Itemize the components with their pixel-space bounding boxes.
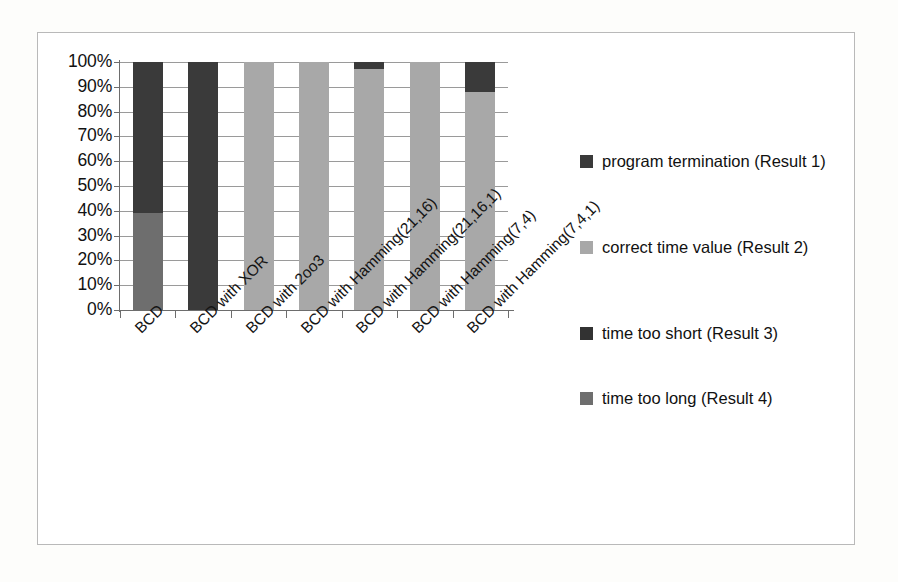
legend-label: time too short (Result 3) xyxy=(602,323,778,345)
y-axis-tick-mark xyxy=(114,260,120,261)
y-axis-tick-label: 90% xyxy=(46,78,112,96)
x-axis-category-labels: BCDBCD with XORBCD with 2oo3BCD with Ham… xyxy=(38,321,598,546)
y-axis-tick-mark xyxy=(114,186,120,187)
y-axis-tick-label: 40% xyxy=(46,202,112,220)
y-axis-tick-label: 100% xyxy=(46,53,112,71)
legend-color-swatch-icon xyxy=(580,241,593,254)
bar-segment[interactable] xyxy=(465,62,495,92)
legend-label: correct time value (Result 2) xyxy=(602,237,808,259)
bar-segment[interactable] xyxy=(133,62,163,213)
x-axis-tick-mark xyxy=(231,311,232,318)
bar-segment[interactable] xyxy=(354,62,384,69)
y-axis-tick-mark xyxy=(114,87,120,88)
legend-color-swatch-icon xyxy=(580,392,593,405)
y-axis-tick-mark xyxy=(114,236,120,237)
legend-entry[interactable]: correct time value (Result 2) xyxy=(580,237,808,259)
plot-region: 0%10%20%30%40%50%60%70%80%90%100% BCDBCD… xyxy=(38,33,598,546)
y-axis-tick-mark xyxy=(114,211,120,212)
x-axis-tick-mark xyxy=(508,311,509,318)
bar-column[interactable] xyxy=(188,62,218,310)
scanned-page: 0%10%20%30%40%50%60%70%80%90%100% BCDBCD… xyxy=(0,0,898,582)
y-axis-tick-labels: 0%10%20%30%40%50%60%70%80%90%100% xyxy=(46,55,112,307)
legend-label: time too long (Result 4) xyxy=(602,388,773,410)
x-axis-tick-mark xyxy=(175,311,176,318)
legend-color-swatch-icon xyxy=(580,327,593,340)
y-axis-tick-label: 70% xyxy=(46,127,112,145)
y-axis-tick-mark xyxy=(114,161,120,162)
y-axis-tick-mark xyxy=(114,112,120,113)
x-axis-tick-mark xyxy=(120,311,121,318)
y-axis-tick-label: 80% xyxy=(46,103,112,121)
y-axis-tick-label: 10% xyxy=(46,276,112,294)
y-axis-tick-label: 30% xyxy=(46,227,112,245)
bar-segment[interactable] xyxy=(188,62,218,310)
y-axis-tick-label: 20% xyxy=(46,251,112,269)
legend-entry[interactable]: program termination (Result 1) xyxy=(580,151,826,173)
y-axis-tick-mark xyxy=(114,62,120,63)
y-axis-tick-mark xyxy=(114,136,120,137)
bar-column[interactable] xyxy=(133,62,163,310)
y-axis-tick-label: 0% xyxy=(46,301,112,319)
x-axis-tick-mark xyxy=(453,311,454,318)
legend-entry[interactable]: time too short (Result 3) xyxy=(580,323,778,345)
y-axis-tick-mark xyxy=(114,285,120,286)
x-axis-tick-mark xyxy=(342,311,343,318)
bar-segment[interactable] xyxy=(133,213,163,310)
x-axis-tick-mark xyxy=(397,311,398,318)
y-axis-tick-label: 60% xyxy=(46,152,112,170)
chart-figure-frame: 0%10%20%30%40%50%60%70%80%90%100% BCDBCD… xyxy=(37,32,855,545)
legend-color-swatch-icon xyxy=(580,155,593,168)
legend-entry[interactable]: time too long (Result 4) xyxy=(580,388,773,410)
x-axis-tick-mark xyxy=(286,311,287,318)
y-axis-tick-label: 50% xyxy=(46,177,112,195)
legend-label: program termination (Result 1) xyxy=(602,151,826,173)
